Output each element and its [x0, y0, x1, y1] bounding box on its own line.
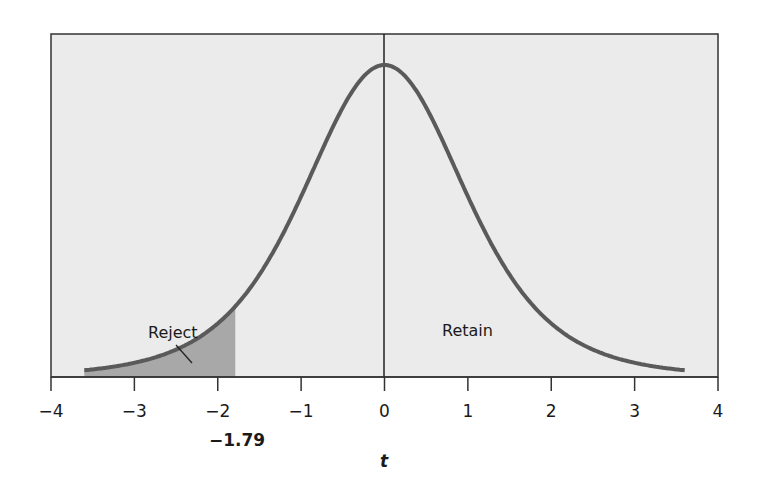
x-tick-label: 4: [713, 401, 724, 421]
x-axis-title: t: [380, 451, 389, 471]
reject-label: Reject: [148, 323, 198, 342]
x-tick-label: 2: [546, 401, 557, 421]
x-tick-label: −3: [122, 401, 147, 421]
x-axis-ticks: −4−3−2−101234: [38, 377, 723, 421]
x-tick-label: −1: [289, 401, 314, 421]
x-tick-label: 0: [379, 401, 390, 421]
t-distribution-chart: −4−3−2−101234 Reject Retain −1.79 t: [0, 0, 758, 491]
x-tick-label: 3: [629, 401, 640, 421]
critical-value-label: −1.79: [209, 430, 265, 450]
x-tick-label: 1: [462, 401, 473, 421]
retain-label: Retain: [442, 321, 493, 340]
x-tick-label: −2: [205, 401, 230, 421]
x-tick-label: −4: [38, 401, 63, 421]
